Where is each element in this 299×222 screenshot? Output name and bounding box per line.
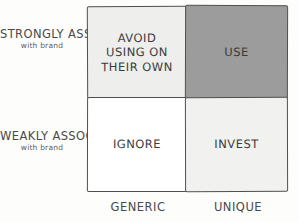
- x-axis-label-unique: UNIQUE: [190, 200, 286, 214]
- y-axis-label-strongly-associated: STRONGLY ASSOCIATED with brand: [0, 28, 84, 51]
- y-axis-label-weakly-associated: WEAKLY ASSOCIATED with brand: [0, 130, 84, 153]
- y-axis-label-weakly-associated-sub: with brand: [0, 144, 84, 152]
- quadrant-use-label: USE: [220, 45, 253, 59]
- y-axis-label-weakly-associated-main: WEAKLY ASSOCIATED: [0, 130, 84, 142]
- quadrant-ignore: IGNORE: [87, 97, 187, 192]
- y-axis-label-strongly-associated-main: STRONGLY ASSOCIATED: [0, 28, 84, 40]
- quadrant-invest-label: INVEST: [210, 137, 262, 151]
- quadrant-use: USE: [185, 5, 288, 99]
- x-axis-label-generic: GENERIC: [92, 200, 184, 214]
- quadrant-avoid-label: AVOIDUSING ONTHEIR OWN: [97, 31, 177, 73]
- quadrant-avoid-using-on-their-own: AVOIDUSING ONTHEIR OWN: [87, 6, 187, 99]
- brand-association-matrix: STRONGLY ASSOCIATED with brand WEAKLY AS…: [0, 0, 299, 222]
- y-axis-label-strongly-associated-sub: with brand: [0, 42, 84, 50]
- matrix-grid: AVOIDUSING ONTHEIR OWN USE IGNORE INVEST: [87, 6, 288, 192]
- quadrant-invest: INVEST: [185, 97, 288, 192]
- quadrant-ignore-label: IGNORE: [109, 137, 165, 151]
